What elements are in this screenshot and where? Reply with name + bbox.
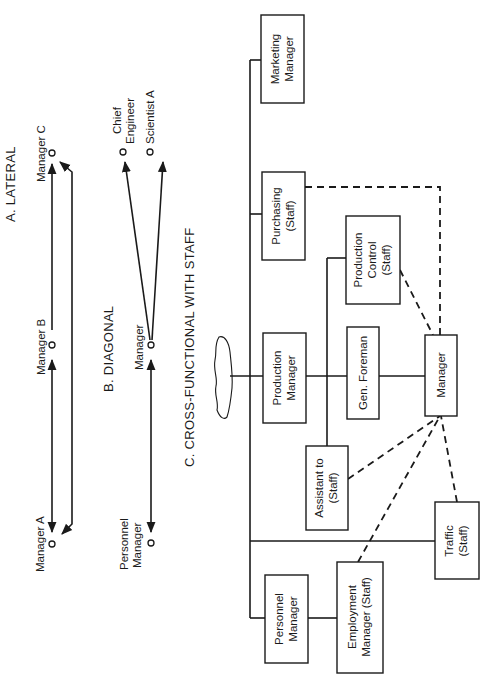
- traffic-line2: (Staff): [457, 525, 469, 556]
- dashed-traffic-to-manager: [441, 416, 457, 502]
- box-assistant-to-staff: Assistant to (Staff): [306, 446, 348, 530]
- diagonal-manager-label: Manager: [133, 324, 145, 370]
- box-gen-foreman: Gen. Foreman: [347, 327, 379, 419]
- manager-c-label: Manager C: [35, 125, 47, 182]
- personnel-manager-b-label-1: Personnel: [118, 518, 130, 570]
- chief-engineer-node: [120, 149, 126, 155]
- employment-manager-line1: Employment: [346, 584, 358, 649]
- manager-b-node: [49, 342, 55, 348]
- manager-c-node: [49, 150, 55, 156]
- employment-manager-line2: Manager (Staff): [360, 577, 372, 657]
- production-manager-line2: Manager: [285, 355, 297, 401]
- arrow-manager-to-chief-engineer: [125, 162, 150, 340]
- section-c-cross-functional: C. CROSS-FUNCTIONAL WITH STAFF Marketing…: [182, 15, 479, 673]
- cloud-icon: [215, 337, 233, 419]
- box-marketing-manager: Marketing Manager: [261, 15, 304, 103]
- production-manager-line1: Production: [271, 351, 283, 406]
- production-control-line1: Production: [352, 233, 364, 288]
- dashed-production-control-to-manager: [400, 270, 433, 335]
- personnel-manager-line1: Personnel: [273, 593, 285, 645]
- manager-b-label: Manager B: [35, 318, 47, 375]
- production-control-line2: Control: [366, 241, 378, 278]
- marketing-line1: Marketing: [269, 34, 281, 85]
- assistant-line2: (Staff): [327, 472, 339, 503]
- arrow-manager-to-scientist-a: [152, 162, 163, 340]
- personnel-manager-b-node: [148, 540, 154, 546]
- section-b-title: B. DIAGONAL: [101, 306, 116, 392]
- personnel-manager-b-label-2: Manager: [131, 522, 143, 568]
- box-production-control-staff: Production Control (Staff): [346, 216, 400, 304]
- scientist-a-label: Scientist A: [144, 90, 156, 144]
- production-control-line3: (Staff): [380, 244, 392, 275]
- organization-communication-diagram: A. LATERAL Manager C Manager B Manager A…: [0, 0, 492, 690]
- manager-a-node: [49, 541, 55, 547]
- box-employment-manager-staff: Employment Manager (Staff): [337, 562, 383, 673]
- dashed-employment-to-manager: [358, 416, 440, 562]
- section-c-title: C. CROSS-FUNCTIONAL WITH STAFF: [182, 228, 197, 467]
- box-production-manager: Production Manager: [263, 333, 306, 423]
- purchasing-line1: Purchasing: [270, 187, 282, 245]
- box-personnel-manager: Personnel Manager: [265, 575, 308, 663]
- section-a-lateral: A. LATERAL Manager C Manager B Manager A: [3, 125, 72, 572]
- arrow-a-to-c: [60, 162, 72, 534]
- manager-a-label: Manager A: [34, 516, 46, 572]
- section-b-diagonal: B. DIAGONAL Chief Engineer Scientist A M…: [101, 90, 163, 570]
- box-purchasing-staff: Purchasing (Staff): [262, 172, 305, 260]
- chief-engineer-label-2: Engineer: [124, 98, 136, 144]
- dashed-assistant-to-manager: [348, 416, 440, 479]
- purchasing-line2: (Staff): [284, 200, 296, 231]
- scientist-a-node: [147, 149, 153, 155]
- section-a-title: A. LATERAL: [3, 146, 18, 222]
- box-traffic-staff: Traffic (Staff): [435, 502, 479, 579]
- marketing-line2: Manager: [283, 36, 295, 82]
- traffic-line1: Traffic: [443, 525, 455, 557]
- box-manager: Manager: [425, 335, 457, 416]
- assistant-line1: Assistant to: [313, 458, 325, 517]
- gen-foreman-line1: Gen. Foreman: [357, 336, 369, 410]
- diagonal-manager-node: [148, 342, 154, 348]
- chief-engineer-label-1: Chief: [111, 106, 123, 134]
- manager-line1: Manager: [435, 352, 447, 398]
- personnel-manager-line2: Manager: [287, 596, 299, 642]
